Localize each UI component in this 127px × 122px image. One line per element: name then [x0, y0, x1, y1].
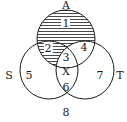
region-label-7: 7 [97, 69, 104, 82]
region-label-6: 6 [63, 81, 70, 94]
set-label-s: S [5, 69, 13, 82]
region-label-2: 2 [45, 42, 52, 55]
region-label-4: 4 [81, 41, 88, 54]
marker-x: X [62, 65, 70, 78]
region-label-8: 8 [63, 106, 70, 119]
region-label-1: 1 [63, 17, 70, 30]
set-label-a: A [61, 0, 71, 12]
region-label-3: 3 [63, 51, 70, 64]
set-label-t: T [116, 69, 124, 82]
venn-diagram: A S T 1 2 3 4 5 6 7 8 X [0, 0, 127, 122]
region-label-5: 5 [26, 69, 33, 82]
